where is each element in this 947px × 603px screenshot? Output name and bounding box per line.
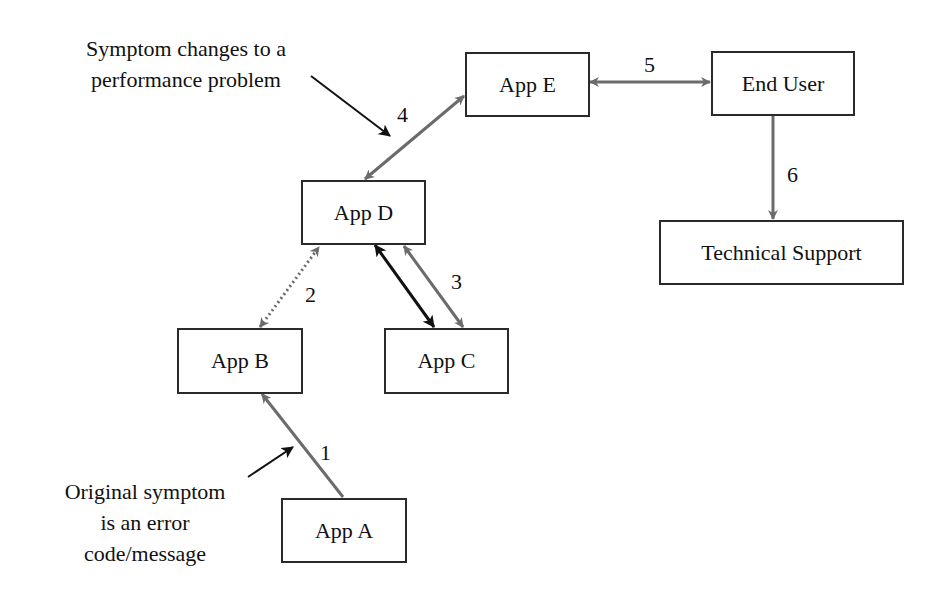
annotation-bottom-line2: is an error bbox=[40, 507, 250, 538]
edge-label-5: 5 bbox=[644, 53, 655, 77]
edge-label-3: 3 bbox=[451, 270, 462, 294]
annotation-arrow-top bbox=[311, 76, 390, 136]
node-technical-support: Technical Support bbox=[659, 220, 904, 285]
node-label: Technical Support bbox=[701, 240, 861, 266]
annotation-bottom-line1: Original symptom bbox=[40, 476, 250, 507]
node-app-d: App D bbox=[301, 180, 426, 245]
node-label: App E bbox=[499, 72, 556, 98]
annotation-bottom: Original symptom is an error code/messag… bbox=[40, 476, 250, 569]
annotation-top-line2: performance problem bbox=[60, 64, 312, 95]
node-label: App A bbox=[315, 518, 373, 544]
annotation-bottom-line3: code/message bbox=[40, 538, 250, 569]
node-app-a: App A bbox=[281, 498, 407, 563]
node-app-c: App C bbox=[384, 328, 509, 394]
node-label: App C bbox=[417, 348, 475, 374]
node-end-user: End User bbox=[711, 51, 855, 116]
annotation-top-line1: Symptom changes to a bbox=[60, 33, 312, 64]
node-app-b: App B bbox=[177, 328, 303, 394]
node-label: App B bbox=[211, 348, 269, 374]
annotation-top: Symptom changes to a performance problem bbox=[60, 33, 312, 95]
edge-4 bbox=[365, 96, 464, 179]
node-label: App D bbox=[334, 200, 393, 226]
node-label: End User bbox=[742, 71, 824, 97]
edge-label-1: 1 bbox=[320, 441, 331, 465]
annotation-arrow-bottom bbox=[248, 447, 293, 477]
edge-label-4: 4 bbox=[397, 103, 408, 127]
node-app-e: App E bbox=[465, 52, 590, 117]
edge-label-6: 6 bbox=[787, 163, 798, 187]
edge-label-2: 2 bbox=[305, 283, 316, 307]
edge-3-black bbox=[375, 245, 434, 327]
